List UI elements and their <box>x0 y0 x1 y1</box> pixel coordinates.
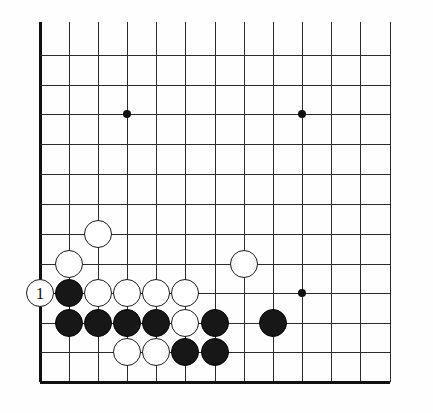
black-stone[interactable] <box>201 309 229 337</box>
white-stone[interactable] <box>84 220 112 248</box>
black-stone[interactable] <box>171 338 199 366</box>
white-stone[interactable] <box>171 279 199 307</box>
black-stone[interactable] <box>142 309 170 337</box>
black-stone[interactable] <box>55 309 83 337</box>
move-stone-1[interactable]: 1 <box>26 279 54 307</box>
white-stone[interactable] <box>113 279 141 307</box>
white-stone[interactable] <box>84 279 112 307</box>
white-stone[interactable] <box>55 250 83 278</box>
white-stone[interactable] <box>142 279 170 307</box>
go-board-diagram: 1 <box>0 0 433 413</box>
white-stone[interactable] <box>171 309 199 337</box>
black-stone[interactable] <box>113 309 141 337</box>
move-number-label: 1 <box>27 280 53 306</box>
white-stone[interactable] <box>230 250 258 278</box>
black-stone[interactable] <box>55 279 83 307</box>
black-stone[interactable] <box>259 309 287 337</box>
board-stones[interactable]: 1 <box>0 0 433 413</box>
white-stone[interactable] <box>142 338 170 366</box>
black-stone[interactable] <box>84 309 112 337</box>
black-stone[interactable] <box>201 338 229 366</box>
white-stone[interactable] <box>113 338 141 366</box>
